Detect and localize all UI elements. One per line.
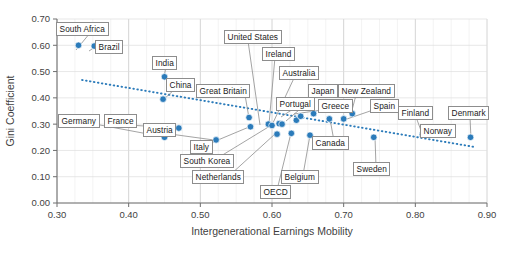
y-tick-label: 0.10	[32, 171, 51, 182]
point-label: Portugal	[276, 97, 315, 111]
point-label: Finland	[398, 106, 433, 120]
point-label: Norway	[420, 124, 456, 138]
data-point: France (0.47, 0.285)	[176, 125, 183, 132]
point-label: South Africa	[56, 22, 109, 36]
y-tick-label: 0.20	[32, 145, 51, 156]
x-axis-title: Intergenerational Earnings Mobility	[191, 225, 353, 237]
data-point: South Korea (0.6, 0.295)	[269, 122, 276, 129]
y-tick-label: 0.60	[32, 40, 51, 51]
y-axis-title: Gini Coefficient	[4, 75, 16, 146]
x-tick-label: 0.70	[334, 209, 353, 220]
point-label: New Zealand	[338, 84, 395, 98]
x-tick-label: 0.30	[48, 209, 67, 220]
data-point: Denmark (0.877, 0.25)	[467, 134, 474, 141]
data-point: Italy (0.57, 0.29)	[247, 123, 254, 130]
data-point: South Africa (0.33, 0.6)	[75, 42, 82, 49]
point-label: France	[104, 114, 137, 128]
point-label: Italy	[190, 140, 213, 154]
data-point: Spain (0.7, 0.32)	[340, 116, 347, 123]
data-point: Greece (0.658, 0.34)	[310, 110, 317, 117]
point-label: Japan	[308, 84, 338, 98]
chart-figure: 0.300.400.500.600.700.800.900.000.100.20…	[0, 0, 507, 261]
point-label: Denmark	[448, 106, 489, 120]
point-label: South Korea	[180, 154, 234, 168]
point-label: Netherlands	[192, 170, 244, 184]
point-label: Ireland	[262, 47, 295, 61]
data-point: Netherlands (0.607, 0.262)	[274, 131, 281, 138]
y-tick-label: 0.70	[32, 13, 51, 24]
x-tick-label: 0.80	[406, 209, 425, 220]
point-label: Spain	[370, 99, 399, 113]
point-label: Brazil	[95, 40, 123, 54]
x-tick-label: 0.60	[263, 209, 282, 220]
data-point: Great Britain (0.568, 0.325)	[246, 114, 253, 121]
y-tick-label: 0.00	[32, 197, 51, 208]
point-label: Germany	[58, 114, 100, 128]
point-label: Sweden	[353, 162, 390, 176]
y-tick-label: 0.30	[32, 119, 51, 130]
point-label: OECD	[260, 185, 291, 199]
point-label: Austria	[143, 123, 176, 137]
point-label: Great Britain	[196, 84, 250, 98]
data-point: Sweden (0.742, 0.25)	[370, 134, 377, 141]
x-tick-label: 0.50	[191, 209, 210, 220]
x-tick-label: 0.90	[478, 209, 497, 220]
x-tick-label: 0.40	[119, 209, 138, 220]
point-label: Canada	[312, 136, 349, 150]
point-label: United States	[224, 30, 282, 44]
data-point: Canada (0.68, 0.32)	[326, 116, 333, 123]
point-label: Australia	[279, 66, 319, 80]
data-point: OECD (0.627, 0.265)	[288, 130, 295, 137]
point-label: India	[152, 56, 177, 70]
y-tick-label: 0.50	[32, 66, 51, 77]
point-label: Belgium	[281, 170, 319, 184]
point-label: China	[166, 78, 195, 92]
data-point: China (0.448, 0.395)	[160, 96, 167, 103]
point-label: Greece	[318, 99, 353, 113]
data-point: Australia (0.614, 0.3)	[279, 121, 286, 128]
y-tick-label: 0.40	[32, 92, 51, 103]
data-point: Portugal (0.64, 0.33)	[297, 113, 304, 120]
data-point: Austria (0.522, 0.24)	[213, 137, 220, 144]
